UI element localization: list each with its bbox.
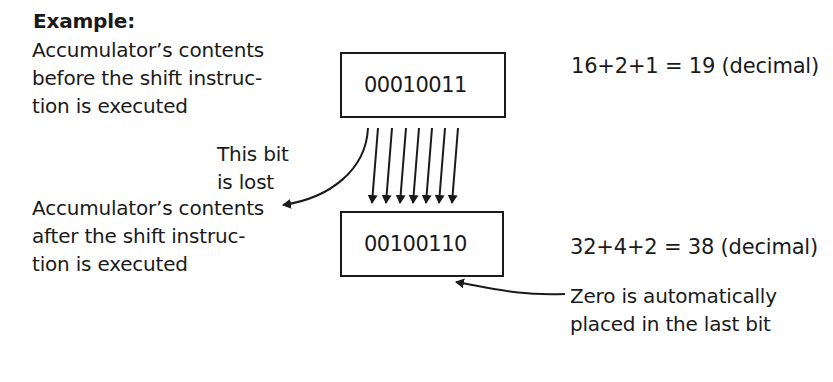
arrows-overlay — [0, 0, 833, 382]
zero-fill-arrow-icon — [456, 282, 565, 294]
shift-arrows-icon — [372, 128, 458, 203]
lost-bit-arrow-icon — [283, 128, 368, 205]
